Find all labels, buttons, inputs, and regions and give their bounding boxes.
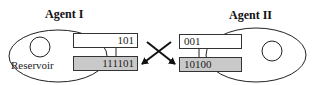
agent-1-bottom-register: 111101	[73, 56, 138, 71]
agent-2-bottom-register: 10100	[179, 57, 242, 72]
agent-1-reservoir-circle	[30, 37, 50, 57]
arrow-to-agent-2-icon	[147, 42, 175, 64]
agent-1-title: Agent I	[45, 7, 83, 22]
agent-1-reservoir-label: Reservoir	[11, 59, 54, 71]
agent-2-title: Agent II	[229, 8, 272, 23]
agent-1-top-register: 101	[73, 33, 138, 48]
agent-2-top-register: 001	[179, 34, 242, 49]
arrow-to-agent-1-icon	[142, 42, 171, 64]
agent-2-reservoir-circle	[262, 41, 282, 61]
